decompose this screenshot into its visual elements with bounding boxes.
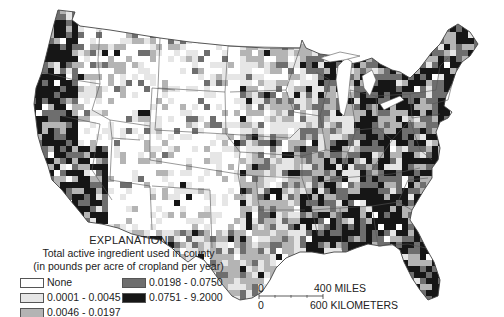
county-cell (450, 116, 456, 122)
county-cell (480, 224, 486, 230)
county-cell (216, 188, 222, 194)
county-cell (318, 8, 324, 14)
county-cell (78, 14, 84, 20)
county-cell (390, 188, 396, 194)
county-cell (444, 164, 450, 170)
county-cell (300, 212, 306, 218)
county-cell (276, 26, 282, 32)
county-cell (126, 68, 132, 74)
county-cell (186, 182, 192, 188)
county-cell (228, 200, 234, 206)
county-cell (240, 92, 246, 98)
county-cell (72, 140, 78, 146)
county-cell (42, 224, 48, 230)
county-cell (390, 212, 396, 218)
county-cell (450, 50, 456, 56)
county-cell (354, 164, 360, 170)
county-cell (474, 218, 480, 224)
county-cell (180, 170, 186, 176)
county-cell (342, 230, 348, 236)
county-cell (84, 182, 90, 188)
county-cell (282, 86, 288, 92)
county-cell (444, 224, 450, 230)
county-cell (294, 176, 300, 182)
county-cell (270, 200, 276, 206)
county-cell (408, 134, 414, 140)
county-cell (480, 62, 486, 68)
county-cell (96, 50, 102, 56)
county-cell (366, 194, 372, 200)
county-cell (102, 80, 108, 86)
county-cell (246, 8, 252, 14)
county-cell (324, 26, 330, 32)
county-cell (318, 38, 324, 44)
county-cell (456, 86, 462, 92)
county-cell (114, 140, 120, 146)
county-cell (162, 200, 168, 206)
county-cell (360, 272, 366, 278)
county-cell (144, 170, 150, 176)
county-cell (228, 110, 234, 116)
county-cell (300, 62, 306, 68)
county-cell (360, 170, 366, 176)
county-cell (84, 32, 90, 38)
county-cell (474, 20, 480, 26)
county-cell (288, 212, 294, 218)
county-cell (126, 206, 132, 212)
county-cell (378, 68, 384, 74)
county-cell (144, 134, 150, 140)
county-cell (240, 122, 246, 128)
county-cell (414, 266, 420, 272)
county-cell (150, 92, 156, 98)
county-cell (432, 218, 438, 224)
county-cell (474, 182, 480, 188)
county-cell (126, 110, 132, 116)
county-cell (48, 194, 54, 200)
county-cell (186, 158, 192, 164)
county-cell (312, 14, 318, 20)
county-cell (456, 176, 462, 182)
county-cell (330, 32, 336, 38)
county-cell (30, 74, 36, 80)
county-cell (72, 176, 78, 182)
county-cell (72, 8, 78, 14)
county-cell (78, 62, 84, 68)
county-cell (474, 140, 480, 146)
county-cell (468, 230, 474, 236)
legend-item-class-2: 0.0046 - 0.0197 (20, 306, 121, 317)
county-cell (222, 134, 228, 140)
county-cell (120, 170, 126, 176)
legend-subtitle-line2: (in pounds per acre of cropland per year… (6, 260, 251, 273)
county-cell (276, 146, 282, 152)
county-cell (342, 188, 348, 194)
county-cell (72, 134, 78, 140)
county-cell (102, 50, 108, 56)
county-cell (300, 218, 306, 224)
county-cell (288, 200, 294, 206)
county-cell (54, 62, 60, 68)
county-cell (186, 224, 192, 230)
county-cell (330, 20, 336, 26)
county-cell (78, 188, 84, 194)
county-cell (150, 224, 156, 230)
county-cell (420, 128, 426, 134)
county-cell (240, 20, 246, 26)
county-cell (444, 218, 450, 224)
county-cell (240, 128, 246, 134)
county-cell (270, 194, 276, 200)
county-cell (90, 200, 96, 206)
county-cell (42, 110, 48, 116)
county-cell (258, 260, 264, 266)
county-cell (36, 116, 42, 122)
county-cell (120, 128, 126, 134)
county-cell (222, 74, 228, 80)
county-cell (288, 206, 294, 212)
county-cell (90, 92, 96, 98)
county-cell (162, 110, 168, 116)
county-cell (90, 38, 96, 44)
county-cell (342, 242, 348, 248)
county-cell (84, 38, 90, 44)
county-cell (282, 50, 288, 56)
county-cell (156, 218, 162, 224)
county-cell (450, 266, 456, 272)
